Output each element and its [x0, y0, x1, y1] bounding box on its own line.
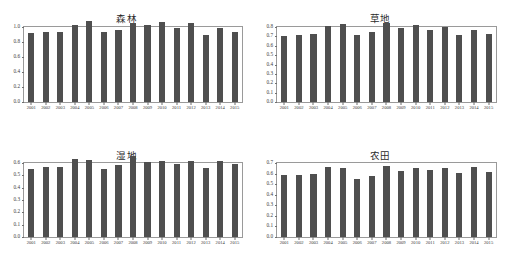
bar-slot: 2013 — [452, 163, 467, 237]
y-axis-tick-label: 0.0 — [267, 234, 273, 239]
bar-series: 2001200220032004200520062007200820092010… — [24, 163, 242, 237]
bar-slot: 2003 — [53, 27, 68, 102]
x-axis-tick-label: 2003 — [309, 106, 318, 111]
bar-slot: 2012 — [184, 163, 199, 237]
x-axis-tick-label: 2008 — [128, 241, 137, 246]
y-axis-tick-mark — [275, 237, 278, 238]
bar — [398, 171, 404, 237]
x-axis-tick-label: 2001 — [27, 241, 36, 246]
bar — [354, 179, 360, 237]
bar-series: 2001200220032004200520062007200820092010… — [24, 27, 242, 102]
x-axis-tick-label: 2006 — [99, 241, 108, 246]
bar-slot: 2005 — [82, 163, 97, 237]
bar — [144, 162, 150, 237]
x-axis-tick-label: 2011 — [426, 106, 435, 111]
y-axis-tick-label: 0.0 — [14, 234, 20, 239]
x-axis-tick-label: 2012 — [187, 241, 196, 246]
x-axis-tick-label: 2002 — [41, 241, 50, 246]
bar — [188, 161, 194, 237]
bar — [43, 167, 49, 237]
bar-slot: 2007 — [365, 163, 380, 237]
y-axis-tick-label: 0.3 — [267, 203, 273, 208]
y-axis-tick-label: 0.2 — [14, 84, 20, 89]
chart-panel-forest: 森林 1.00.80.60.40.20.02001200220032004200… — [0, 0, 253, 137]
bar — [217, 28, 223, 102]
bar-slot: 2011 — [423, 163, 438, 237]
bar — [296, 175, 302, 237]
x-axis-tick-label: 2010 — [157, 106, 166, 111]
bar-slot: 2005 — [335, 27, 350, 102]
bar — [144, 25, 150, 102]
x-axis-tick-label: 2002 — [294, 241, 303, 246]
y-axis-tick-label: 0.6 — [14, 160, 20, 165]
bar — [456, 173, 462, 237]
x-axis-tick-label: 2015 — [230, 241, 239, 246]
y-axis-tick-label: 0.4 — [267, 62, 273, 67]
bar-slot: 2010 — [155, 163, 170, 237]
x-axis-tick-label: 2004 — [70, 106, 79, 111]
bar — [101, 169, 107, 237]
y-axis-tick-label: 0.6 — [267, 43, 273, 48]
bar-slot: 2003 — [53, 163, 68, 237]
y-axis-tick-label: 0.5 — [267, 182, 273, 187]
y-axis-tick-label: 0.1 — [267, 224, 273, 229]
bar-slot: 2006 — [350, 27, 365, 102]
figure-grid: 森林 1.00.80.60.40.20.02001200220032004200… — [0, 0, 507, 273]
bar-slot: 2001 — [24, 27, 39, 102]
bar-slot: 2003 — [306, 27, 321, 102]
plot-area-grassland: 0.80.70.60.50.40.30.20.10.02001200220032… — [276, 26, 497, 103]
bar-slot: 2010 — [155, 27, 170, 102]
x-axis-tick-label: 2007 — [367, 241, 376, 246]
bar-slot: 2010 — [408, 163, 423, 237]
x-axis-tick-label: 2014 — [469, 106, 478, 111]
bar-slot: 2014 — [213, 27, 228, 102]
bar — [72, 25, 78, 102]
bar — [174, 28, 180, 102]
x-axis-tick-label: 2003 — [309, 241, 318, 246]
x-axis-tick-label: 2014 — [216, 241, 225, 246]
y-axis-tick-label: 0.3 — [14, 197, 20, 202]
bar — [86, 160, 92, 237]
bar — [130, 23, 136, 103]
x-axis-tick-label: 2007 — [114, 241, 123, 246]
y-axis-tick-label: 0.3 — [267, 71, 273, 76]
y-axis-tick-label: 0.1 — [267, 90, 273, 95]
y-axis-tick-label: 0.6 — [267, 171, 273, 176]
x-axis-tick-label: 2009 — [143, 241, 152, 246]
y-axis-tick-mark — [275, 102, 278, 103]
bar — [383, 166, 389, 237]
x-axis-tick-label: 2008 — [128, 106, 137, 111]
bar-slot: 2008 — [126, 27, 141, 102]
chart-title-grassland: 草地 — [253, 11, 507, 25]
y-axis-tick-label: 0.0 — [267, 99, 273, 104]
y-axis-tick-label: 0.6 — [14, 54, 20, 59]
x-axis-tick-label: 2013 — [455, 241, 464, 246]
x-axis-tick-label: 2006 — [353, 106, 362, 111]
bar-slot: 2009 — [394, 163, 409, 237]
x-axis-tick-label: 2011 — [172, 106, 181, 111]
bar — [115, 165, 121, 237]
bar — [340, 24, 346, 102]
x-axis-tick-label: 2007 — [114, 106, 123, 111]
chart-title-wetland: 湿地 — [0, 148, 253, 162]
plot-area-forest: 1.00.80.60.40.20.02001200220032004200520… — [23, 26, 243, 103]
bar — [442, 27, 448, 102]
bar-slot: 2008 — [126, 163, 141, 237]
bar — [413, 168, 419, 237]
bar — [57, 32, 63, 103]
x-axis-tick-label: 2015 — [484, 241, 493, 246]
bar-slot: 2001 — [277, 27, 292, 102]
x-axis-tick-label: 2003 — [56, 241, 65, 246]
bar-slot: 2004 — [68, 27, 83, 102]
y-axis-tick-label: 0.4 — [14, 69, 20, 74]
x-axis-tick-label: 2010 — [157, 241, 166, 246]
x-axis-tick-label: 2012 — [187, 106, 196, 111]
y-axis-tick-label: 0.7 — [267, 160, 273, 165]
x-axis-tick-label: 2002 — [294, 106, 303, 111]
bar-slot: 2013 — [198, 163, 213, 237]
x-axis-tick-label: 2007 — [367, 106, 376, 111]
x-axis-tick-label: 2006 — [99, 106, 108, 111]
x-axis-tick-label: 2013 — [201, 106, 210, 111]
bar — [383, 23, 389, 102]
bar-slot: 2013 — [452, 27, 467, 102]
